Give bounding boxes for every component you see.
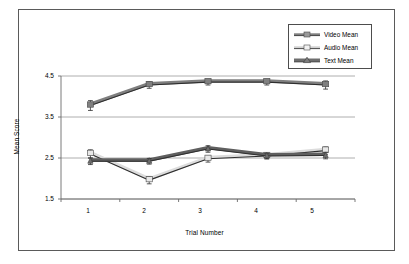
legend-item-video[interactable]: Video Mean <box>289 28 371 41</box>
gridlines <box>61 76 355 199</box>
x-tick-label-4: 4 <box>246 207 266 214</box>
chart-figure: 4.5 3.5 2.5 1.5 1 2 3 4 5 Trial Number M… <box>0 0 409 264</box>
chart-legend: Video Mean Audio Mean Text Mean <box>288 24 372 69</box>
x-axis-title: Trial Number <box>0 229 409 236</box>
y-axis-title: Mean Score <box>13 102 20 172</box>
legend-marker-text-icon <box>293 55 321 66</box>
legend-label-text: Text Mean <box>321 57 353 64</box>
x-tick-label-1: 1 <box>78 207 98 214</box>
x-tick-label-2: 2 <box>134 207 154 214</box>
x-tick-label-5: 5 <box>302 207 322 214</box>
y-tick-label-3: 3.5 <box>28 113 54 120</box>
x-tick-label-3: 3 <box>190 207 210 214</box>
data-series-layer <box>87 78 328 183</box>
axis-lines <box>61 76 355 199</box>
legend-item-audio[interactable]: Audio Mean <box>289 41 371 54</box>
y-tick-label-4: 4.5 <box>28 72 54 79</box>
legend-label-video: Video Mean <box>321 31 358 38</box>
legend-label-audio: Audio Mean <box>321 44 358 51</box>
y-tick-label-1: 1.5 <box>28 195 54 202</box>
legend-item-text[interactable]: Text Mean <box>289 54 371 67</box>
legend-marker-video-icon <box>293 29 321 40</box>
y-tick-label-2: 2.5 <box>28 154 54 161</box>
legend-marker-audio-icon <box>293 42 321 53</box>
